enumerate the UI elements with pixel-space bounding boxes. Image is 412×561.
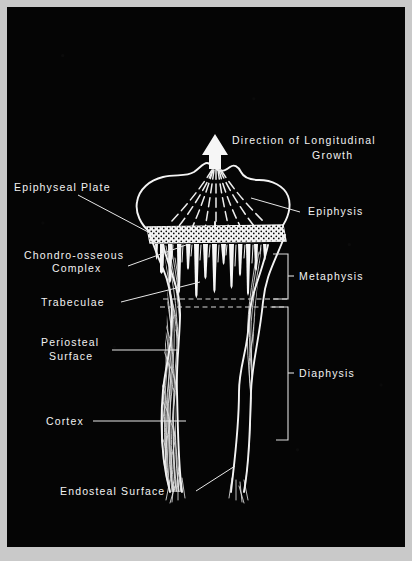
leader-epiphysis: [251, 198, 300, 212]
figure-root: Direction of Longitudinal Growth Epiphys…: [0, 0, 412, 561]
metaphysis-bracket: [273, 254, 294, 299]
label-diaphysis: Diaphysis: [299, 367, 355, 379]
label-epiphysis: Epiphysis: [308, 205, 363, 217]
growth-caption-line2: Growth: [312, 149, 353, 161]
leader-epiphyseal-plate: [78, 195, 150, 233]
label-chondro-osseous-line2: Complex: [52, 262, 101, 274]
epiphyseal-plate-band: [145, 224, 290, 244]
diaphysis-bracket: [272, 307, 294, 440]
label-trabeculae: Trabeculae: [41, 296, 105, 308]
label-periosteal-surface-line1: Periosteal: [41, 336, 99, 348]
label-cortex: Cortex: [46, 415, 84, 427]
label-periosteal-surface-line2: Surface: [49, 350, 93, 362]
label-endosteal-surface: Endosteal Surface: [60, 485, 165, 497]
leader-endosteal-surface: [196, 466, 235, 491]
endosteal-fiber-tips: [166, 478, 248, 503]
bone-illustration: Direction of Longitudinal Growth Epiphys…: [0, 0, 412, 561]
growth-caption-line1: Direction of Longitudinal: [232, 134, 376, 146]
label-epiphyseal-plate: Epiphyseal Plate: [14, 181, 111, 193]
leader-trabeculae: [121, 282, 200, 302]
label-chondro-osseous-line1: Chondro-osseous: [24, 249, 124, 261]
label-metaphysis: Metaphysis: [299, 270, 364, 282]
